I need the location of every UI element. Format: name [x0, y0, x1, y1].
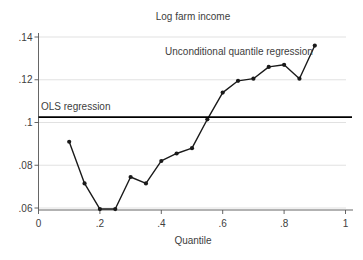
data-point-marker [67, 140, 71, 144]
axes [35, 33, 354, 214]
line-chart-log-farm-income: .06.08.1.12.140.2.4.6.81 Log farm income… [0, 0, 363, 260]
series-label-unconditional-quantile-regression: Unconditional quantile regression [165, 46, 313, 57]
data-point-marker [129, 175, 133, 179]
x-axis-title: Quantile [174, 235, 212, 246]
x-tick-label: .2 [96, 218, 105, 229]
series-label-ols-regression: OLS regression [41, 101, 110, 112]
chart-canvas: .06.08.1.12.140.2.4.6.81 Log farm income… [0, 0, 363, 260]
tick-labels: .06.08.1.12.140.2.4.6.81 [19, 32, 349, 230]
data-point-marker [236, 79, 240, 83]
data-point-marker [221, 90, 225, 94]
y-tick-label: .1 [24, 117, 33, 128]
data-point-marker [251, 77, 255, 81]
x-tick-label: 1 [343, 218, 349, 229]
data-point-marker [113, 207, 117, 211]
data-point-marker [267, 65, 271, 69]
data-point-marker [159, 159, 163, 163]
data-point-marker [190, 146, 194, 150]
x-tick-label: 0 [36, 218, 42, 229]
unconditional-quantile-regression-line [69, 46, 315, 210]
y-tick-label: .14 [19, 32, 33, 43]
data-point-marker [175, 151, 179, 155]
data-point-marker [297, 77, 301, 81]
data-point-marker [282, 63, 286, 67]
x-tick-label: .8 [280, 218, 289, 229]
x-tick-label: .6 [219, 218, 228, 229]
data-point-marker [313, 43, 317, 47]
data-series [39, 43, 353, 211]
y-tick-label: .12 [19, 74, 33, 85]
data-point-marker [144, 181, 148, 185]
y-tick-label: .06 [19, 203, 33, 214]
data-point-marker [98, 207, 102, 211]
data-point-marker [82, 181, 86, 185]
y-tick-label: .08 [19, 160, 33, 171]
chart-title: Log farm income [156, 11, 231, 22]
x-tick-label: .4 [157, 218, 166, 229]
